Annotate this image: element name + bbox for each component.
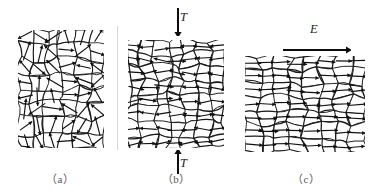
field-arrow-e xyxy=(283,42,351,54)
grain-boundaries xyxy=(128,40,224,148)
load-arrow-head xyxy=(174,32,181,36)
field-label-t-b: T xyxy=(180,10,187,25)
panel-caption-c: （c） xyxy=(276,170,336,186)
grain-boundaries xyxy=(18,30,104,148)
load-arrow-head xyxy=(346,46,351,53)
grain-structure-c xyxy=(245,56,365,152)
grain-structure-b xyxy=(128,40,224,148)
field-arrow-e-glyph xyxy=(283,44,351,56)
grain xyxy=(18,136,34,148)
panel-a xyxy=(18,30,104,148)
load-arrow-head xyxy=(174,150,181,154)
field-label-e-c: E xyxy=(310,22,318,37)
divider-a-b xyxy=(117,26,118,150)
figure-domain-reorientation: （a）（b）TT（c）E xyxy=(0,0,377,196)
field-label-t-b: T xyxy=(180,156,187,171)
domain-arrow-shaft xyxy=(349,76,365,77)
panel-c xyxy=(245,56,365,152)
panel-b xyxy=(128,40,224,148)
grain-structure-a xyxy=(18,30,104,148)
domain-arrow-head xyxy=(363,74,365,78)
panel-caption-a: （a） xyxy=(30,170,90,186)
